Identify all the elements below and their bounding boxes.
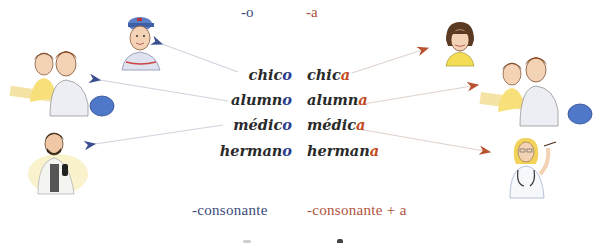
word-stem: alumn (307, 91, 358, 108)
word-medico: médico (172, 116, 292, 133)
masculine-suffix: -o (241, 4, 254, 21)
word-alumno: alumno (172, 91, 292, 108)
cropped-glyph (337, 239, 343, 243)
feminine-suffix: -a (306, 4, 318, 21)
word-stem: herman (220, 142, 283, 159)
word-stem: chic (307, 66, 341, 83)
word-ending: a (370, 142, 379, 159)
arrow-chica (352, 48, 428, 73)
word-ending: o (282, 66, 292, 83)
word-stem: médic (233, 116, 282, 133)
word-stem: alumn (231, 91, 282, 108)
feminine-rule: -consonante + a (307, 202, 407, 219)
word-stem: herman (307, 142, 370, 159)
word-ending: o (282, 91, 292, 108)
word-alumna: alumna (307, 91, 368, 108)
word-ending: o (282, 142, 292, 159)
word-chico: chico (172, 66, 292, 83)
word-ending: a (341, 66, 350, 83)
word-medica: médica (307, 116, 365, 133)
girl-illustration (440, 20, 480, 68)
students-illustration-right (478, 52, 596, 130)
word-ending: o (282, 116, 292, 133)
word-chica: chica (307, 66, 350, 83)
word-stem: chic (249, 66, 283, 83)
arrow-alumna (357, 85, 478, 105)
students-illustration-left (2, 42, 120, 120)
cropped-glyph (243, 240, 251, 243)
masculine-rule: -consonante (192, 202, 268, 219)
word-ending: a (358, 91, 367, 108)
male-doctor-illustration (24, 128, 94, 196)
word-ending: a (356, 116, 365, 133)
word-hermana: hermana (307, 142, 379, 159)
boy-with-cap-illustration (118, 12, 164, 72)
word-stem: médic (307, 116, 356, 133)
female-doctor-illustration (506, 134, 566, 200)
word-hermano: hermano (172, 142, 292, 159)
